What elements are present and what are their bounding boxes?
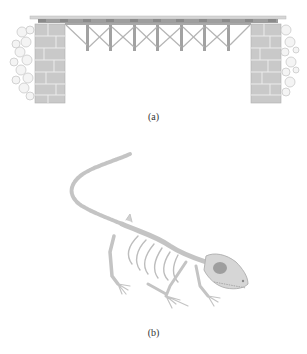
hind-leg [110,236,118,284]
caption-b: (b) [0,327,307,338]
tail-bones [72,154,130,224]
ribs [129,236,178,282]
figure-panel-a: (a) [0,0,307,140]
front-leg [166,262,186,296]
eye-socket [213,262,227,274]
lizard-skeleton-illustration [0,140,307,325]
right-rubble [281,25,299,96]
right-pier [251,24,281,103]
bridge-illustration [0,0,307,110]
caption-a: (a) [0,111,307,122]
left-rubble [10,26,34,100]
bridge-deck [30,16,286,19]
figure-panel-b: (b) [0,140,307,354]
left-pier [35,24,65,103]
spine [122,224,206,262]
skull [204,254,248,289]
